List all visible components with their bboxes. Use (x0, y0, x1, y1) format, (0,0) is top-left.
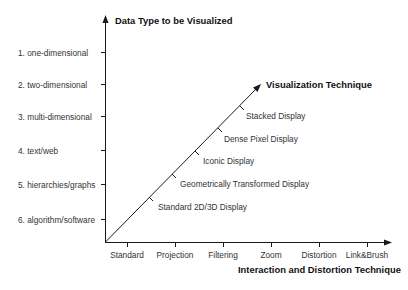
x-label-zoom: Zoom (260, 251, 281, 259)
diag-label-standard-2d-3d: Standard 2D/3D Display (158, 203, 247, 211)
y-axis-title: Data Type to be Visualized (115, 16, 232, 25)
x-axis-arrowhead (384, 240, 392, 246)
y-label-one-dimensional: 1. one-dimensional (18, 49, 88, 57)
y-label-hierarchies-graphs: 5. hierarchies/graphs (18, 181, 95, 189)
x-label-standard: Standard (110, 251, 144, 259)
axes-drawing (0, 0, 408, 290)
x-label-filtering: Filtering (208, 251, 238, 259)
x-label-link-brush: Link&Brush (346, 251, 388, 259)
y-label-text-web: 4. text/web (18, 147, 58, 155)
diagonal-axis-title: Visualization Technique (266, 80, 372, 89)
diag-label-dense-pixel: Dense Pixel Display (224, 135, 298, 143)
diag-label-iconic: Iconic Display (203, 157, 254, 165)
diag-label-stacked: Stacked Display (246, 112, 306, 120)
x-axis-title: Interaction and Distortion Technique (238, 265, 401, 274)
y-label-two-dimensional: 2. two-dimensional (18, 81, 87, 89)
y-axis-arrowhead (103, 15, 109, 23)
y-label-multi-dimensional: 3. multi-dimensional (18, 113, 92, 121)
x-label-distortion: Distortion (301, 251, 336, 259)
y-label-algorithm-software: 6. algorithm/software (18, 216, 95, 224)
diag-label-geometrically-transformed: Geometrically Transformed Display (180, 180, 309, 188)
x-label-projection: Projection (157, 251, 194, 259)
